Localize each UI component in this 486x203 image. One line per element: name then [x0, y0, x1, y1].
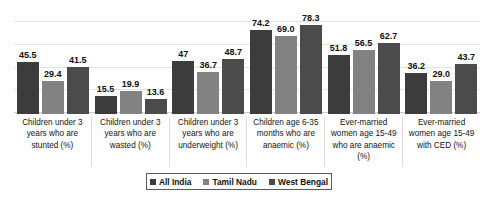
- bar-wrapper: 62.7: [378, 6, 400, 114]
- category-label: Children age 6-35 months who are anaemic…: [247, 117, 324, 167]
- bar-value-label: 29.0: [432, 70, 450, 79]
- bar-group: 4736.748.7: [169, 4, 247, 114]
- bar-tamil-nadu[interactable]: [42, 81, 64, 114]
- bar-value-label: 69.0: [277, 25, 295, 34]
- bar-west-bengal[interactable]: [300, 25, 322, 114]
- bar-wrapper: 36.2: [405, 6, 427, 114]
- bar-wrapper: 41.5: [67, 6, 89, 114]
- bar-wrapper: 36.7: [197, 6, 219, 114]
- legend-item-all-india[interactable]: All India: [150, 177, 192, 187]
- bar-tamil-nadu[interactable]: [275, 36, 297, 114]
- legend-label: Tamil Nadu: [212, 177, 257, 187]
- bar-west-bengal[interactable]: [222, 59, 244, 114]
- bar-group: 51.856.562.7: [325, 4, 403, 114]
- legend-swatch-icon: [203, 179, 209, 185]
- bar-value-label: 62.7: [380, 32, 398, 41]
- bar-all-india[interactable]: [328, 55, 350, 114]
- bar-groups: 45.529.441.515.519.913.64736.748.774.269…: [14, 4, 480, 114]
- bar-west-bengal[interactable]: [67, 67, 89, 114]
- legend-swatch-icon: [269, 179, 275, 185]
- bar-value-label: 29.4: [44, 70, 62, 79]
- category-label: Ever-married women age 15-49 with CED (%…: [403, 117, 480, 167]
- bar-wrapper: 47: [172, 6, 194, 114]
- bar-value-label: 74.2: [252, 19, 270, 28]
- bar-west-bengal[interactable]: [378, 43, 400, 114]
- bar-value-label: 51.8: [330, 44, 348, 53]
- bar-group: 15.519.913.6: [92, 4, 170, 114]
- bar-all-india[interactable]: [17, 62, 39, 114]
- bar-wrapper: 15.5: [95, 6, 117, 114]
- grouped-bar-chart: 45.529.441.515.519.913.64736.748.774.269…: [0, 0, 486, 203]
- legend-item-west-bengal[interactable]: West Bengal: [269, 177, 328, 187]
- bar-west-bengal[interactable]: [455, 64, 477, 114]
- bar-wrapper: 19.9: [120, 6, 142, 114]
- bar-tamil-nadu[interactable]: [353, 50, 375, 114]
- category-label: Children under 3 years who are stunted (…: [14, 117, 91, 167]
- bar-value-label: 47: [178, 50, 188, 59]
- bar-wrapper: 13.6: [145, 6, 167, 114]
- bar-wrapper: 78.3: [300, 6, 322, 114]
- bar-value-label: 36.7: [199, 61, 217, 70]
- bar-wrapper: 51.8: [328, 6, 350, 114]
- bar-all-india[interactable]: [95, 96, 117, 114]
- bar-wrapper: 29.0: [430, 6, 452, 114]
- legend-swatch-icon: [150, 179, 156, 185]
- bar-all-india[interactable]: [250, 30, 272, 114]
- bar-value-label: 15.5: [97, 85, 115, 94]
- bar-wrapper: 69.0: [275, 6, 297, 114]
- bar-value-label: 45.5: [19, 51, 37, 60]
- category-label: Children under 3 years who are underweig…: [170, 117, 247, 167]
- bar-value-label: 48.7: [224, 48, 242, 57]
- bar-all-india[interactable]: [172, 61, 194, 114]
- bar-value-label: 43.7: [457, 53, 475, 62]
- bar-wrapper: 48.7: [222, 6, 244, 114]
- bar-value-label: 56.5: [355, 39, 373, 48]
- bar-all-india[interactable]: [405, 73, 427, 114]
- bar-wrapper: 29.4: [42, 6, 64, 114]
- bar-tamil-nadu[interactable]: [197, 72, 219, 114]
- legend-label: West Bengal: [278, 177, 328, 187]
- legend-label: All India: [159, 177, 192, 187]
- bar-group: 74.269.078.3: [247, 4, 325, 114]
- chart-legend: All IndiaTamil NaduWest Bengal: [146, 173, 332, 190]
- bar-west-bengal[interactable]: [145, 99, 167, 114]
- plot-area: 45.529.441.515.519.913.64736.748.774.269…: [14, 4, 480, 114]
- bar-value-label: 36.2: [407, 62, 425, 71]
- bar-value-label: 78.3: [302, 14, 320, 23]
- bar-value-label: 13.6: [147, 88, 165, 97]
- bar-group: 36.229.043.7: [402, 4, 480, 114]
- bar-wrapper: 74.2: [250, 6, 272, 114]
- category-label: Children under 3 years who are wasted (%…: [92, 117, 169, 167]
- bar-wrapper: 45.5: [17, 6, 39, 114]
- bar-wrapper: 56.5: [353, 6, 375, 114]
- bar-tamil-nadu[interactable]: [430, 81, 452, 114]
- bar-tamil-nadu[interactable]: [120, 91, 142, 114]
- bar-wrapper: 43.7: [455, 6, 477, 114]
- bar-value-label: 41.5: [69, 56, 87, 65]
- category-axis-labels: Children under 3 years who are stunted (…: [14, 117, 480, 167]
- category-label: Ever-married women age 15-49 who are ana…: [325, 117, 402, 167]
- bar-group: 45.529.441.5: [14, 4, 92, 114]
- bar-value-label: 19.9: [122, 80, 140, 89]
- legend-item-tamil-nadu[interactable]: Tamil Nadu: [203, 177, 257, 187]
